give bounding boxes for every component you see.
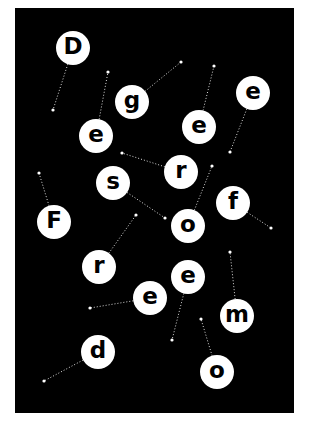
letter-glyph: e: [245, 80, 261, 103]
dotted-connector-line: [230, 252, 235, 299]
dotted-connector-line: [127, 192, 165, 218]
letter-glyph: o: [180, 213, 196, 236]
dotted-connector-line: [90, 301, 133, 308]
star-dot-icon: [228, 150, 231, 153]
letter-glyph: e: [191, 114, 207, 137]
letter-bubble: m: [220, 299, 254, 333]
letter-bubble: o: [200, 355, 234, 389]
dotted-connector-line: [145, 62, 181, 91]
dotted-connector-line: [109, 215, 136, 253]
letter-glyph: s: [106, 170, 120, 193]
letter-bubble: e: [133, 281, 167, 315]
letter-bubble: o: [171, 209, 205, 243]
letter-bubble: d: [81, 335, 115, 369]
letter-bubble: e: [236, 76, 270, 110]
letter-glyph: e: [88, 123, 104, 146]
letter-glyph: g: [124, 89, 140, 112]
dotted-connector-line: [122, 153, 165, 167]
letter-bubble: f: [216, 186, 250, 220]
dotted-connector-line: [44, 360, 83, 381]
letter-glyph: m: [225, 303, 249, 326]
star-dot-icon: [120, 151, 123, 154]
letter-glyph: o: [209, 359, 225, 382]
star-dot-icon: [163, 216, 166, 219]
letter-bubble: D: [56, 31, 90, 65]
letter-bubble: r: [164, 155, 198, 189]
letter-glyph: D: [63, 35, 82, 58]
letter-glyph: e: [142, 285, 158, 308]
letter-bubble: e: [182, 110, 216, 144]
dotted-connector-line: [201, 319, 212, 356]
star-dot-icon: [199, 317, 202, 320]
star-dot-icon: [269, 226, 272, 229]
star-dot-icon: [51, 108, 54, 111]
letter-glyph: F: [46, 209, 62, 232]
dotted-connector-line: [203, 66, 214, 110]
letter-bubble: e: [171, 260, 205, 294]
dotted-connector-line: [230, 109, 247, 152]
letter-bubble: e: [79, 119, 113, 153]
star-dot-icon: [37, 171, 40, 174]
star-dot-icon: [179, 60, 182, 63]
star-dot-icon: [212, 64, 215, 67]
letter-bubble: F: [37, 205, 71, 239]
letter-glyph: d: [90, 339, 106, 362]
letter-glyph: e: [180, 264, 196, 287]
dotted-connector-line: [247, 212, 271, 228]
letter-glyph: r: [175, 159, 186, 182]
dotted-connector-line: [172, 293, 184, 340]
star-dot-icon: [42, 379, 45, 382]
star-dot-icon: [228, 250, 231, 253]
star-dot-icon: [210, 164, 213, 167]
letter-bubble: r: [82, 250, 116, 284]
letter-bubble: g: [115, 85, 149, 119]
dotted-connector-line: [39, 173, 49, 206]
dotted-connector-line: [53, 64, 68, 110]
letter-glyph: f: [228, 190, 238, 213]
star-dot-icon: [170, 338, 173, 341]
star-dot-icon: [106, 70, 109, 73]
letter-bubble: s: [96, 166, 130, 200]
star-dot-icon: [134, 213, 137, 216]
star-dot-icon: [88, 306, 91, 309]
letter-glyph: r: [93, 254, 104, 277]
dotted-connector-line: [99, 72, 108, 119]
